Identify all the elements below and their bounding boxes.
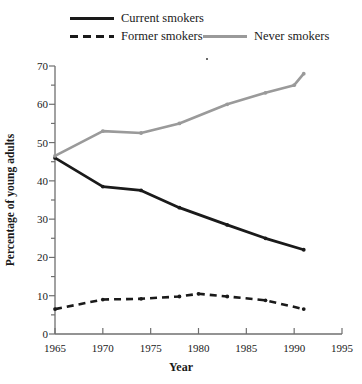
- data-point-marker: [197, 292, 201, 296]
- x-tick-label: 1980: [188, 343, 210, 354]
- y-tick-label: 60: [20, 99, 48, 110]
- data-point-marker: [225, 102, 229, 106]
- data-point-marker: [139, 189, 143, 193]
- data-point-marker: [225, 295, 229, 299]
- data-series-layer: [53, 72, 306, 311]
- data-point-marker: [302, 248, 306, 252]
- data-point-marker: [101, 185, 105, 189]
- x-tick-label: 1985: [235, 343, 257, 354]
- y-tick-label: 70: [20, 61, 48, 72]
- data-point-marker: [225, 223, 229, 227]
- y-tick-label: 30: [20, 214, 48, 225]
- y-axis-title: Percentage of young adults: [4, 134, 16, 266]
- y-tick-label: 10: [20, 290, 48, 301]
- x-tick-label: 1995: [331, 343, 353, 354]
- data-point-marker: [139, 131, 143, 135]
- data-point-marker: [177, 206, 181, 210]
- y-tick-label: 20: [20, 252, 48, 263]
- data-point-marker: [53, 154, 57, 158]
- data-point-marker: [292, 83, 296, 87]
- data-point-marker: [264, 91, 268, 95]
- plot-area: [0, 0, 362, 384]
- data-point-marker: [302, 72, 306, 76]
- data-point-marker: [101, 298, 105, 302]
- x-tick-label: 1990: [283, 343, 305, 354]
- series-line-current-smokers: [55, 158, 304, 250]
- chart-container: Current smokers Former smokers Never smo…: [0, 0, 362, 384]
- data-point-marker: [101, 129, 105, 133]
- data-point-marker: [264, 236, 268, 240]
- data-point-marker: [53, 307, 57, 311]
- y-tick-label: 40: [20, 175, 48, 186]
- series-line-never-smokers: [55, 74, 304, 156]
- data-point-marker: [139, 297, 143, 301]
- y-tick-label: 0: [20, 329, 48, 340]
- data-point-marker: [177, 122, 181, 126]
- data-point-marker: [302, 307, 306, 311]
- axis-ticks: [49, 66, 342, 334]
- y-tick-label: 50: [20, 137, 48, 148]
- x-axis-title: Year: [0, 360, 362, 375]
- x-tick-label: 1970: [92, 343, 114, 354]
- data-point-marker: [264, 298, 268, 302]
- x-tick-label: 1965: [44, 343, 66, 354]
- data-point-marker: [177, 295, 181, 299]
- x-tick-label: 1975: [140, 343, 162, 354]
